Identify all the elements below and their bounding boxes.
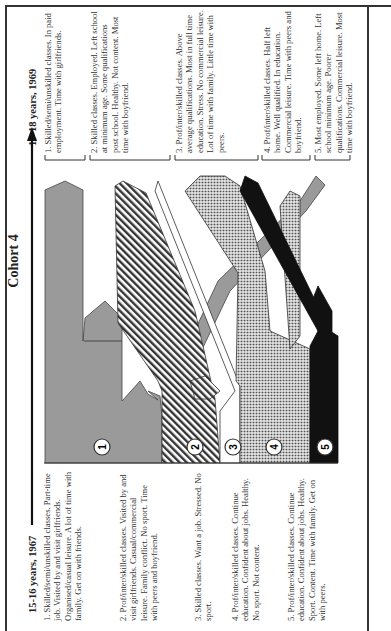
cohort-figure: Cohort 4 15-16 years, 1967 17-18 years, … xyxy=(0,0,391,631)
transition-diagram: 1 2 3 4 5 xyxy=(0,0,391,631)
svg-text:2: 2 xyxy=(190,444,201,450)
end-group-brackets xyxy=(45,155,350,160)
band-marker-3: 3 xyxy=(225,439,241,455)
svg-text:5: 5 xyxy=(320,444,331,450)
svg-text:3: 3 xyxy=(228,444,239,450)
band-marker-2: 2 xyxy=(187,439,203,455)
svg-text:1: 1 xyxy=(97,444,108,450)
band-marker-1: 1 xyxy=(94,439,110,455)
svg-text:4: 4 xyxy=(269,444,280,450)
band-marker-5: 5 xyxy=(317,439,333,455)
time-arrow xyxy=(27,127,37,525)
band-marker-4: 4 xyxy=(266,439,282,455)
